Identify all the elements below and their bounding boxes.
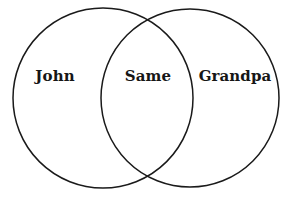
venn-label-intersection: Same [125,69,171,84]
venn-label-left: John [35,69,74,84]
venn-diagram-graphic [0,0,289,197]
venn-label-right: Grandpa [199,69,272,84]
venn-diagram-canvas: John Same Grandpa [0,0,289,197]
venn-circle-left [13,8,193,188]
venn-circle-right [101,9,279,187]
